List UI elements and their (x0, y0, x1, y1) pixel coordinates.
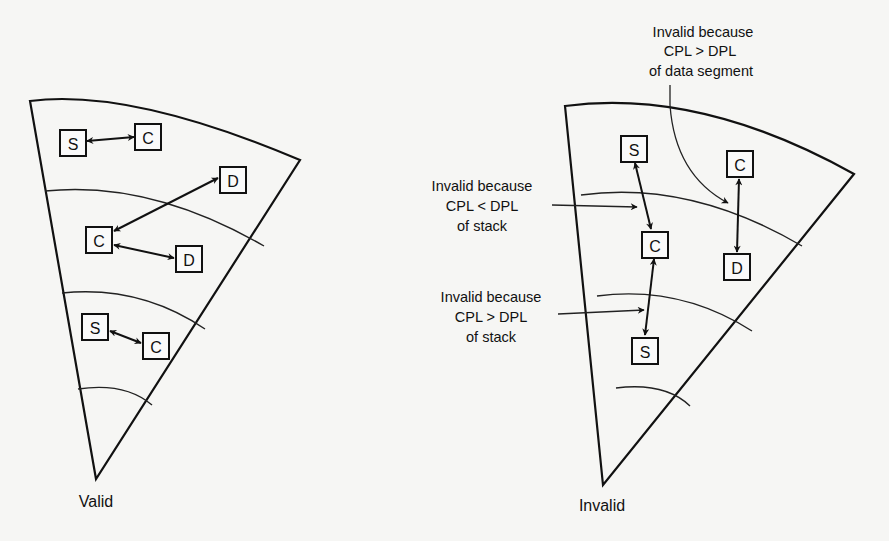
ring-1-boundary (45, 189, 264, 246)
svg-text:Invalid because: Invalid because (441, 289, 542, 305)
svg-text:C: C (142, 130, 154, 147)
svg-text:Invalid because: Invalid because (432, 178, 533, 194)
svg-text:of stack: of stack (457, 218, 508, 234)
svg-text:C: C (150, 339, 162, 356)
ring-2-boundary (597, 294, 752, 331)
caption-valid: Valid (79, 493, 113, 510)
svg-text:C: C (649, 238, 661, 255)
svg-text:D: D (731, 260, 743, 277)
svg-text:CPL < DPL: CPL < DPL (446, 198, 518, 214)
box-code: C (143, 333, 169, 359)
ring-1-boundary (581, 192, 802, 246)
box-data: D (220, 167, 246, 193)
svg-text:C: C (93, 233, 105, 250)
svg-text:S: S (629, 142, 640, 159)
box-stack: S (60, 130, 86, 156)
box-code: C (642, 232, 668, 258)
svg-text:of data segment: of data segment (649, 63, 753, 79)
arrow-c-d-upper (114, 178, 218, 231)
annotation-stack-gt: Invalid because CPL > DPL of stack (441, 289, 542, 345)
box-stack: S (632, 338, 658, 364)
svg-text:Invalid because: Invalid because (653, 24, 754, 40)
annotation-data-segment: Invalid because CPL > DPL of data segmen… (649, 24, 753, 79)
box-data: D (724, 254, 750, 280)
box-data: D (176, 246, 202, 272)
arrow-s-c-ring2 (110, 331, 141, 343)
svg-text:D: D (227, 173, 239, 190)
box-stack: S (82, 314, 108, 340)
svg-text:CPL > DPL: CPL > DPL (664, 43, 736, 59)
svg-text:of stack: of stack (466, 329, 517, 345)
leader-data-segment (670, 85, 728, 203)
svg-text:CPL > DPL: CPL > DPL (455, 309, 527, 325)
diagram-svg: S C D C D S C Valid S C C D S Invalid be… (0, 0, 889, 541)
svg-text:S: S (640, 344, 651, 361)
box-code: C (86, 227, 112, 253)
arrow-s-c-ring0 (87, 137, 134, 141)
arrow-s-c-invalid-upper (635, 163, 651, 229)
ring-3-boundary (78, 387, 152, 405)
arrow-c-d-lower (114, 245, 174, 258)
svg-text:D: D (183, 252, 195, 269)
invalid-wedge (565, 103, 854, 485)
svg-text:C: C (734, 157, 746, 174)
box-stack: S (621, 136, 647, 162)
leader-stack-gt (558, 310, 644, 314)
annotation-stack-lt: Invalid because CPL < DPL of stack (432, 178, 533, 234)
caption-invalid: Invalid (579, 497, 625, 514)
svg-text:S: S (68, 136, 79, 153)
box-code: C (135, 124, 161, 150)
arrow-c-d-invalid (737, 179, 739, 252)
leader-stack-lt (552, 205, 637, 207)
privilege-rings-figure: S C D C D S C Valid S C C D S Invalid be… (0, 0, 889, 541)
box-code: C (727, 151, 753, 177)
arrow-c-s-invalid-lower (645, 259, 654, 335)
svg-text:S: S (90, 320, 101, 337)
